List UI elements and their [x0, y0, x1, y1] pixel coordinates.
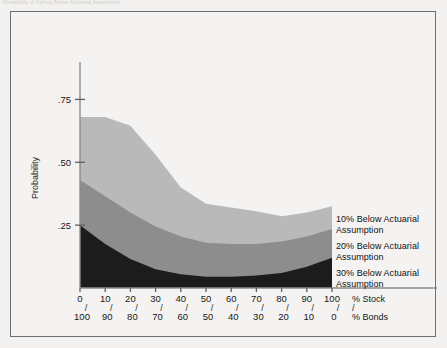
x-tick-label-stock: 90 [302, 293, 313, 304]
x-tick-label-bonds: 30 [253, 311, 264, 322]
legend-item-10pct-line2: Assumption [336, 225, 440, 236]
legend-item-10pct: 10% Below Actuarial Assumption [336, 214, 440, 235]
y-tick-label: .25 [58, 220, 71, 231]
x-tick-separator: / [337, 303, 340, 313]
x-tick-label-bonds: 10 [304, 311, 315, 322]
legend-item-30pct-line2: Assumption [336, 279, 440, 290]
x-tick-label-stock: 80 [276, 293, 287, 304]
x-tick-label-stock: 10 [100, 293, 111, 304]
legend-item-20pct-line1: 20% Below Actuarial [336, 241, 440, 252]
legend-item-30pct-line1: 30% Below Actuarial [336, 268, 440, 279]
x-tick-label-stock: 20 [125, 293, 136, 304]
x-tick-label-bonds: 20 [278, 311, 289, 322]
x-tick-label-bonds: 60 [178, 311, 189, 322]
y-axis-label: Probability [30, 156, 40, 199]
x-tick-label-bonds: 50 [203, 311, 214, 322]
chart-plot-area: 0/10010/9020/8030/7040/6050/5060/4070/30… [0, 0, 447, 348]
x-tick-label-stock: 0 [77, 293, 82, 304]
x-axis-ticks-group: 0/10010/9020/8030/7040/6050/5060/4070/30… [74, 288, 340, 322]
area-bands-group [80, 117, 332, 288]
x-tick-label-bonds: 0 [331, 311, 336, 322]
y-tick-label: .50 [58, 157, 71, 168]
x-axis-label-stock: % Stock [352, 294, 386, 304]
x-tick-label-bonds: 80 [127, 311, 138, 322]
x-axis-label-bonds: % Bonds [352, 312, 389, 322]
x-tick-label-bonds: 90 [102, 311, 113, 322]
x-tick-label-bonds: 70 [152, 311, 163, 322]
legend-item-10pct-line1: 10% Below Actuarial [336, 214, 440, 225]
x-tick-label-stock: 70 [251, 293, 262, 304]
legend-item-30pct: 30% Below Actuarial Assumption [336, 268, 440, 289]
chart-legend: 10% Below Actuarial Assumption 20% Below… [336, 214, 440, 289]
x-tick-label-stock: 40 [176, 293, 187, 304]
y-tick-label: .75 [58, 94, 71, 105]
x-tick-label-stock: 50 [201, 293, 212, 304]
legend-item-20pct: 20% Below Actuarial Assumption [336, 241, 440, 262]
x-tick-label-bonds: 40 [228, 311, 239, 322]
area-chart-svg: 0/10010/9020/8030/7040/6050/5060/4070/30… [0, 0, 447, 348]
x-tick-label-stock: 30 [150, 293, 161, 304]
legend-item-20pct-line2: Assumption [336, 252, 440, 263]
x-tick-label-stock: 60 [226, 293, 237, 304]
x-tick-label-bonds: 100 [74, 311, 90, 322]
